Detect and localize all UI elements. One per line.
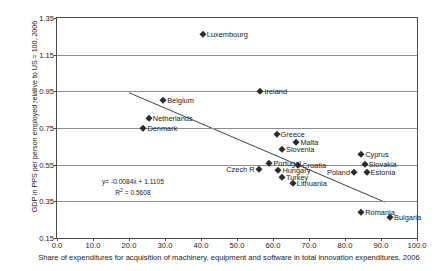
data-point-label: Luxembourg (207, 29, 248, 38)
regression-equation-annotation: y= -0.0084x + 1.1105 R2 = 0.5608 (102, 178, 164, 197)
x-tick-label: 50.0 (230, 241, 245, 250)
data-point-label: Belgium (167, 95, 194, 104)
y-tick-mark (54, 165, 57, 166)
x-tick-label: 30.0 (158, 241, 173, 250)
y-axis-title: GDP in PPS per person employed relative … (30, 4, 39, 230)
x-tick-label: 20.0 (122, 241, 137, 250)
y-tick-label: 0.75 (39, 124, 54, 133)
data-point-label: Czech R (226, 164, 254, 173)
data-point-label: Slovenia (286, 145, 314, 154)
x-tick-label: 0.0 (52, 241, 63, 250)
y-tick-mark (54, 91, 57, 92)
data-point-label: Poland (327, 168, 350, 177)
data-point-label: Netherlands (153, 113, 193, 122)
regression-equation-line: y= -0.0084x + 1.1105 (102, 178, 164, 186)
gridline-horizontal (57, 55, 417, 56)
data-point-label: Cyprus (365, 149, 388, 158)
x-tick-label: 100.0 (407, 241, 426, 250)
y-tick-mark (54, 201, 57, 202)
y-tick-mark (54, 128, 57, 129)
x-tick-label: 10.0 (86, 241, 101, 250)
r-squared-line: R2 = 0.5608 (102, 187, 164, 197)
data-point-label: Estonia (371, 168, 396, 177)
y-tick-label: 1.15 (39, 50, 54, 59)
x-tick-label: 80.0 (338, 241, 353, 250)
y-tick-mark (54, 55, 57, 56)
r-squared-value: = 0.5608 (123, 189, 151, 196)
data-point-label: Bulgaria (394, 213, 421, 222)
gridline-horizontal (57, 91, 417, 92)
data-point-label: Denmark (147, 123, 177, 132)
y-tick-mark (54, 18, 57, 19)
y-tick-label: 0.95 (39, 87, 54, 96)
x-tick-label: 90.0 (374, 241, 389, 250)
trendline (129, 93, 385, 202)
y-tick-label: 1.35 (39, 14, 54, 23)
y-tick-label: 0.35 (39, 197, 54, 206)
data-point-label: Ireland (264, 86, 287, 95)
gridline-horizontal (57, 128, 417, 129)
x-tick-label: 40.0 (194, 241, 209, 250)
data-point-label: Lithuania (297, 178, 327, 187)
x-tick-label: 70.0 (302, 241, 317, 250)
plot-area: y= -0.0084x + 1.1105 R2 = 0.5608 1.351.1… (56, 17, 418, 239)
scatter-chart-figure: GDP in PPS per person employed relative … (0, 0, 439, 271)
y-tick-label: 0.55 (39, 160, 54, 169)
gridline-horizontal (57, 201, 417, 202)
x-axis-title: Share of expenditures for acquisition of… (24, 253, 434, 262)
x-tick-label: 60.0 (266, 241, 281, 250)
